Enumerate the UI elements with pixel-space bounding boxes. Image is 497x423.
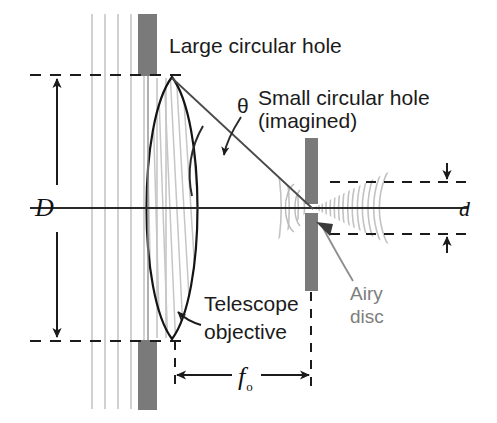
small-hole-label-line1: Small circular hole [258,86,430,109]
large-aperture-bar-top [138,14,157,76]
theta-label: θ [237,94,249,117]
telescope-label-line1: Telescope [204,292,299,315]
optics-diagram: D d fo Large circular hole Small circula… [0,0,497,423]
large-hole-label: Large circular hole [169,34,342,57]
small-hole-label-line2: (imagined) [258,109,357,132]
small-aperture-bar-top [305,138,318,204]
airy-diameter-label: d [459,196,471,221]
airy-disc-label-line1: Airy [350,283,383,304]
large-aperture-bar-bottom [138,340,157,410]
canvas-background [0,0,497,423]
diagram-canvas: D d fo Large circular hole Small circula… [0,0,497,423]
small-aperture-bar-bottom [305,213,318,291]
telescope-label-line2: objective [204,320,287,343]
aperture-diameter-label: D [34,193,54,222]
airy-disc-label-line2: disc [350,306,384,327]
